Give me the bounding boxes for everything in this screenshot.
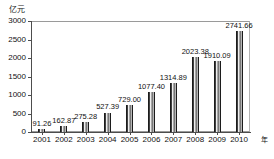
bar	[82, 122, 89, 132]
bar-value-label: 527.39	[96, 103, 119, 111]
x-tick	[108, 132, 109, 135]
x-tick	[64, 132, 65, 135]
bar-value-label: 729.00	[118, 96, 141, 104]
x-tick-label: 2001	[33, 135, 51, 144]
x-tick	[173, 132, 174, 135]
bar-value-label: 91.26	[33, 120, 52, 128]
x-tick	[239, 132, 240, 135]
bar	[104, 113, 111, 133]
x-tick	[130, 132, 131, 135]
x-tick-label: 2007	[164, 135, 182, 144]
x-tick	[151, 132, 152, 135]
bar-value-label: 1077.40	[138, 83, 165, 91]
bar	[126, 105, 133, 132]
x-tick-label: 2009	[208, 135, 226, 144]
bar-chart: 亿元 050010001500200025003000 91.26162.872…	[0, 0, 274, 159]
bar	[214, 61, 221, 132]
x-tick-label: 2002	[55, 135, 73, 144]
x-tick	[42, 132, 43, 135]
x-axis-unit-label: 年	[261, 136, 268, 144]
y-tick	[28, 132, 32, 133]
y-axis-unit-label: 亿元	[9, 5, 25, 14]
x-tick-label: 2010	[230, 135, 248, 144]
x-tick-label: 2008	[186, 135, 204, 144]
bar-value-label: 275.28	[74, 113, 97, 121]
bar	[148, 92, 155, 132]
x-tick	[217, 132, 218, 135]
x-tick	[195, 132, 196, 135]
x-tick-label: 2004	[99, 135, 117, 144]
bar	[170, 83, 177, 132]
x-tick-label: 2003	[77, 135, 95, 144]
bar	[236, 31, 243, 132]
bar-value-label: 2741.66	[225, 22, 252, 30]
bar	[192, 57, 199, 132]
bar-value-label: 1314.89	[160, 74, 187, 82]
bar-value-label: 162.87	[52, 117, 75, 125]
x-tick	[86, 132, 87, 135]
bar-value-label: 1910.09	[204, 52, 231, 60]
x-tick-label: 2005	[121, 135, 139, 144]
x-tick-label: 2006	[143, 135, 161, 144]
